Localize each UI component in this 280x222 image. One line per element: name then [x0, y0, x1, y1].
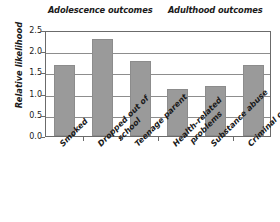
- bar: [92, 39, 113, 136]
- group-header-adolescence: Adolescence outcomes: [48, 5, 153, 15]
- x-tick-mark: [83, 137, 84, 141]
- group-header-adulthood: Adulthood outcomes: [168, 5, 263, 15]
- y-tick-label: 2.5: [18, 26, 42, 35]
- y-tick-mark: [41, 137, 45, 138]
- y-tick-label: 0.0: [18, 132, 42, 141]
- bar-chart-figure: Adolescence outcomes Adulthood outcomes …: [0, 0, 280, 222]
- y-tick-label: 0.5: [18, 111, 42, 120]
- bar: [54, 65, 75, 136]
- gridline: [46, 96, 270, 97]
- y-tick-label: 2.0: [18, 47, 42, 56]
- x-tick-mark: [158, 137, 159, 141]
- y-tick-label: 1.5: [18, 68, 42, 77]
- gridline: [46, 74, 270, 75]
- x-tick-mark: [233, 137, 234, 141]
- gridline: [46, 53, 270, 54]
- y-tick-label: 1.0: [18, 90, 42, 99]
